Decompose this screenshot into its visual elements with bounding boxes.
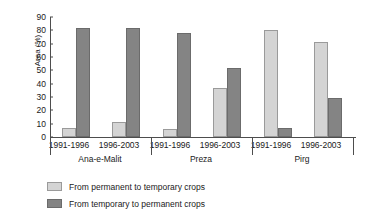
bar-pair [52,17,102,137]
bar-permanent-to-temporary [213,88,227,137]
y-tick-label: 90 [24,12,50,22]
bar-pair [102,17,152,137]
bar-permanent-to-temporary [314,42,328,137]
bar-pair [153,17,203,137]
bar-permanent-to-temporary [163,129,177,137]
legend-label: From temporary to permanent crops [69,199,205,209]
bar-pair [203,17,253,137]
bar-temporary-to-permanent [328,98,342,137]
bar-permanent-to-temporary [62,128,76,137]
y-tick-label: 20 [24,105,50,115]
x-axis-group-label: Pirg [252,154,352,164]
bar-temporary-to-permanent [278,128,292,137]
y-tick-label: 80 [24,25,50,35]
axis-end-tick [353,137,354,155]
bar-temporary-to-permanent [177,33,191,137]
group-separator [252,137,253,155]
y-tick-label: 50 [24,65,50,75]
bar-temporary-to-permanent [126,28,140,137]
legend-label: From permanent to temporary crops [69,182,205,192]
plot-area: 0102030405060708090 [50,17,355,137]
bar-pair [254,17,304,137]
axis-start-tick [50,137,51,155]
legend-item: From temporary to permanent crops [47,195,205,212]
bar-chart: Area (%) 0102030405060708090 1991-199619… [0,0,383,222]
bar-temporary-to-permanent [76,28,90,137]
y-tick-label: 40 [24,79,50,89]
y-tick-label: 30 [24,92,50,102]
y-tick-label: 70 [24,39,50,49]
y-tick-label: 60 [24,52,50,62]
bar-temporary-to-permanent [227,68,241,137]
chart-legend: From permanent to temporary crops From t… [47,178,205,212]
group-separator [151,137,152,155]
legend-swatch-temporary-to-permanent [47,199,62,208]
legend-swatch-permanent-to-temporary [47,182,62,191]
bar-permanent-to-temporary [112,122,126,137]
x-axis-group-label: Preza [151,154,251,164]
x-axis-period-label: 1996-2003 [291,140,351,150]
legend-item: From permanent to temporary crops [47,178,205,195]
y-tick-label: 10 [24,119,50,129]
bar-permanent-to-temporary [264,30,278,137]
x-axis-line [50,137,356,138]
bar-pair [304,17,354,137]
x-axis-group-label: Ana-e-Malit [50,154,150,164]
